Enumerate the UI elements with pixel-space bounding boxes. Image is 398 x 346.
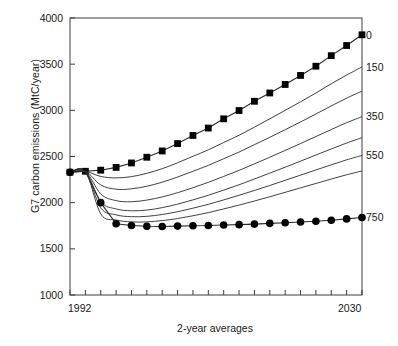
series-marker-750 <box>189 222 197 230</box>
series-marker-750 <box>97 199 105 207</box>
chart-figure: G7 carbon emissions (MtC/year) 2-year av… <box>0 0 398 346</box>
series-marker-750 <box>251 220 259 228</box>
series-marker-0 <box>128 160 135 167</box>
series-marker-0 <box>328 52 335 59</box>
series-line-0 <box>70 35 362 172</box>
series-label-150: 150 <box>366 61 384 73</box>
x-axis-title: 2-year averages <box>0 322 398 334</box>
series-marker-750 <box>266 220 274 228</box>
series-marker-750 <box>66 168 74 176</box>
series-marker-0 <box>312 63 319 70</box>
series-line-150 <box>70 67 362 178</box>
series-marker-0 <box>190 132 197 139</box>
series-marker-0 <box>174 140 181 147</box>
series-marker-0 <box>97 167 104 174</box>
series-marker-0 <box>220 115 227 122</box>
y-tick-label: 2500 <box>40 150 64 162</box>
series-marker-0 <box>282 81 289 88</box>
series-marker-0 <box>143 154 150 161</box>
series-marker-0 <box>113 164 120 171</box>
series-marker-750 <box>312 218 320 226</box>
series-marker-750 <box>143 223 151 231</box>
y-tick-label: 3000 <box>40 104 64 116</box>
series-marker-750 <box>281 219 289 227</box>
series-label-350: 350 <box>366 110 384 122</box>
series-marker-750 <box>343 215 351 223</box>
series-marker-750 <box>205 222 213 230</box>
plot-frame <box>70 18 362 295</box>
series-marker-750 <box>112 220 120 228</box>
series-marker-750 <box>158 223 166 231</box>
series-marker-750 <box>327 216 335 224</box>
series-line-250 <box>70 91 362 189</box>
plot-area: 1000150020002500300035004000199220300150… <box>0 0 398 346</box>
series-marker-0 <box>359 31 366 38</box>
series-marker-750 <box>235 221 243 229</box>
series-marker-750 <box>174 222 182 230</box>
series-marker-750 <box>297 218 305 226</box>
series-marker-0 <box>236 107 243 114</box>
y-tick-label: 1500 <box>40 242 64 254</box>
x-tick-label-end: 2030 <box>338 302 362 314</box>
y-tick-label: 4000 <box>40 12 64 24</box>
x-axis-title-text: 2-year averages <box>177 322 253 334</box>
series-label-0: 0 <box>366 29 372 41</box>
y-tick-label: 3500 <box>40 58 64 70</box>
series-marker-750 <box>220 221 228 229</box>
series-marker-0 <box>159 148 166 155</box>
y-tick-label: 2000 <box>40 196 64 208</box>
y-axis-title: G7 carbon emissions (MtC/year) <box>29 16 41 256</box>
series-marker-0 <box>343 42 350 49</box>
series-marker-0 <box>297 72 304 79</box>
series-marker-750 <box>358 214 366 222</box>
series-marker-750 <box>128 222 136 230</box>
series-marker-0 <box>266 90 273 97</box>
series-label-750: 750 <box>366 211 384 223</box>
series-label-550: 550 <box>366 149 384 161</box>
series-marker-0 <box>251 98 258 105</box>
x-tick-label-start: 1992 <box>68 302 92 314</box>
series-marker-0 <box>205 125 212 132</box>
y-tick-label: 1000 <box>40 289 64 301</box>
